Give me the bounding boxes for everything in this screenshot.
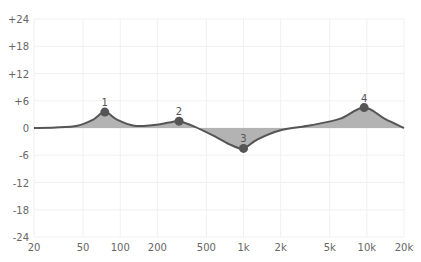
x-tick-label: 50: [77, 242, 90, 253]
y-tick-label: +24: [8, 14, 29, 25]
band-point[interactable]: [100, 108, 109, 117]
band-label: 1: [102, 97, 108, 108]
y-tick-label: -6: [19, 150, 29, 161]
x-tick-label: 200: [148, 242, 167, 253]
band-label: 3: [240, 133, 246, 144]
eq-band-handle-1[interactable]: 1: [100, 97, 109, 117]
x-tick-label: 5k: [324, 242, 336, 253]
band-point[interactable]: [360, 103, 369, 112]
band-point[interactable]: [175, 117, 184, 126]
x-tick-label: 20k: [395, 242, 414, 253]
eq-chart: +24+18+12+60-6-12-18-24 20501002005001k2…: [0, 0, 421, 262]
eq-band-handle-3[interactable]: 3: [239, 133, 248, 153]
y-tick-label: +6: [14, 96, 29, 107]
eq-band-handle-2[interactable]: 2: [175, 106, 184, 126]
y-tick-label: 0: [23, 123, 29, 134]
x-tick-label: 10k: [358, 242, 377, 253]
y-tick-label: +12: [8, 69, 29, 80]
y-tick-label: +18: [8, 41, 29, 52]
x-tick-label: 100: [111, 242, 130, 253]
band-point[interactable]: [239, 144, 248, 153]
y-tick-label: -24: [13, 232, 29, 243]
y-tick-label: -12: [13, 178, 29, 189]
eq-band-handle-4[interactable]: 4: [360, 93, 369, 113]
x-tick-label: 1k: [237, 242, 249, 253]
x-tick-label: 500: [197, 242, 216, 253]
y-axis-ticks: +24+18+12+60-6-12-18-24: [8, 14, 29, 243]
band-label: 2: [176, 106, 182, 117]
x-axis-ticks: 20501002005001k2k5k10k20k: [28, 242, 414, 253]
band-label: 4: [361, 93, 367, 104]
x-tick-label: 2k: [275, 242, 287, 253]
y-tick-label: -18: [13, 205, 29, 216]
x-tick-label: 20: [28, 242, 41, 253]
